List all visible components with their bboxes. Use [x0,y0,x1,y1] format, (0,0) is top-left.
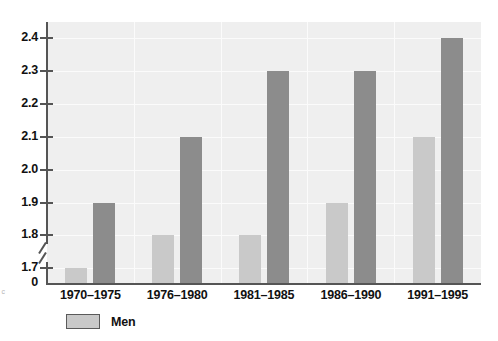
plot-area [47,22,481,283]
vertical-gridline [394,22,395,283]
legend-label-men: Men [111,315,135,329]
gridline [47,71,481,72]
y-axis-tick-label: 1.9 [4,195,38,209]
y-axis-tick-label: 2.1 [4,129,38,143]
legend-swatch-men [66,314,100,329]
y-axis-tick-label: 1.7 [4,260,38,274]
x-axis-line [46,283,481,285]
vertical-gridline [221,22,222,283]
y-axis-tick [40,103,53,105]
legend: Men [66,314,135,329]
x-axis-category-label: 1970–1975 [47,288,134,302]
y-axis-line [46,22,48,244]
bar [441,38,463,283]
vertical-gridline [307,22,308,283]
y-axis-tick-label: 2.2 [4,96,38,110]
x-axis-category-label: 1981–1985 [221,288,308,302]
bar [326,203,348,283]
gridline [47,38,481,39]
bar [267,71,289,283]
bar [65,268,87,283]
gridline [47,104,481,105]
bar-chart-figure: 2.42.32.22.12.01.91.81.70 1970–19751976–… [0,0,498,341]
axis-break-marker [36,243,58,266]
y-axis-tick-label: 1.8 [4,227,38,241]
bar [413,137,435,283]
y-axis-tick [40,37,53,39]
cropped-margin-text: y c [0,288,10,296]
bar [180,137,202,283]
x-axis-category-label: 1991–1995 [394,288,481,302]
y-axis-tick [40,234,53,236]
bar [93,203,115,283]
y-axis-tick [40,202,53,204]
y-axis-tick [40,169,53,171]
y-axis-tick [40,136,53,138]
y-axis-tick [40,267,53,269]
y-axis-tick-label: 2.0 [4,162,38,176]
y-axis-tick-label: 2.4 [4,30,38,44]
x-axis-category-label: 1976–1980 [134,288,221,302]
y-axis-tick-label: 2.3 [4,63,38,77]
x-axis-category-label: 1986–1990 [307,288,394,302]
bar [354,71,376,283]
bar [239,235,261,283]
y-axis-zero-label: 0 [4,275,38,289]
vertical-gridline [134,22,135,283]
y-axis-tick [40,70,53,72]
bar [152,235,174,283]
